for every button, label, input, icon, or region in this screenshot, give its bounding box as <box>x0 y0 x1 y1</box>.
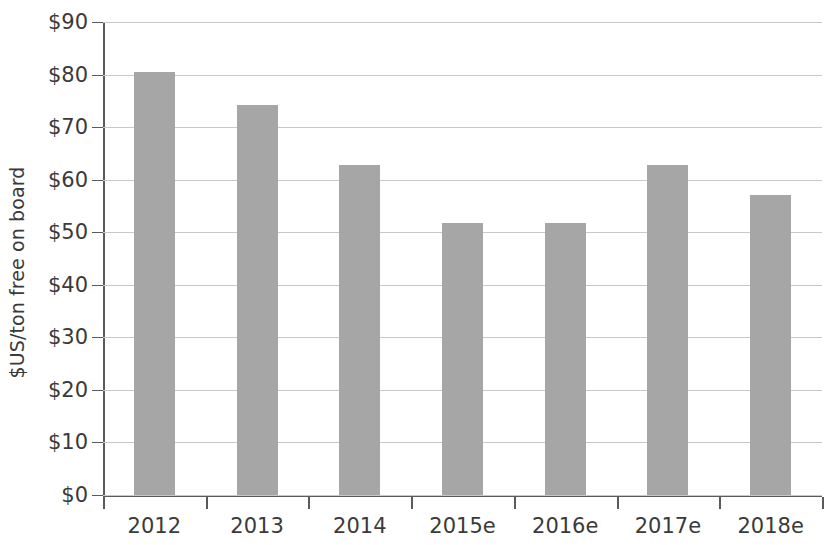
y-axis-tick <box>92 127 103 128</box>
plot-area: $90$80$70$60$50$40$30$20$10$0 2012201320… <box>103 22 822 495</box>
x-axis-tick <box>617 497 619 509</box>
x-axis-tick-label: 2016e <box>532 514 598 538</box>
y-axis-tick <box>92 390 103 391</box>
bar <box>647 165 688 495</box>
y-axis-tick-label: $40 <box>48 273 88 297</box>
x-axis-tick-label: 2013 <box>230 514 283 538</box>
y-axis-tick <box>92 442 103 443</box>
x-axis-tick <box>719 497 721 509</box>
y-axis-tick-label: $50 <box>48 220 88 244</box>
x-axis-tick <box>411 497 413 509</box>
y-axis-tick-label: $0 <box>61 483 88 507</box>
y-axis-tick <box>92 337 103 338</box>
x-axis-tick-label: 2015e <box>429 514 495 538</box>
x-axis-tick-label: 2014 <box>333 514 386 538</box>
y-axis-tick-label: $20 <box>48 378 88 402</box>
y-axis-tick <box>92 22 103 23</box>
x-axis-tick <box>103 497 105 509</box>
gridline <box>103 495 822 496</box>
y-axis-tick <box>92 495 103 496</box>
bar-chart: $US/ton free on board $90$80$70$60$50$40… <box>0 0 831 545</box>
bar <box>442 223 483 495</box>
x-axis-tick <box>206 497 208 509</box>
x-axis-tick-label: 2018e <box>737 514 803 538</box>
y-axis-tick-label: $70 <box>48 115 88 139</box>
y-axis-title: $US/ton free on board <box>0 0 34 545</box>
bar <box>134 72 175 495</box>
y-axis-tick-label: $30 <box>48 325 88 349</box>
bar <box>545 223 586 495</box>
y-axis-tick <box>92 285 103 286</box>
gridline <box>103 75 822 76</box>
y-axis-tick-label: $90 <box>48 10 88 34</box>
gridline <box>103 180 822 181</box>
y-axis-tick-label: $60 <box>48 168 88 192</box>
x-axis-tick-label: 2012 <box>128 514 181 538</box>
x-axis-tick <box>822 497 824 509</box>
gridline <box>103 22 822 23</box>
bar <box>339 165 380 495</box>
y-axis-tick-label: $80 <box>48 63 88 87</box>
bar <box>237 105 278 495</box>
y-axis-tick <box>92 232 103 233</box>
y-axis-line <box>103 22 105 496</box>
x-axis-tick <box>514 497 516 509</box>
y-axis-tick-label: $10 <box>48 430 88 454</box>
y-axis-tick <box>92 180 103 181</box>
y-axis-tick <box>92 75 103 76</box>
x-axis-tick-label: 2017e <box>635 514 701 538</box>
gridline <box>103 127 822 128</box>
bar <box>750 195 791 495</box>
x-axis-tick <box>308 497 310 509</box>
